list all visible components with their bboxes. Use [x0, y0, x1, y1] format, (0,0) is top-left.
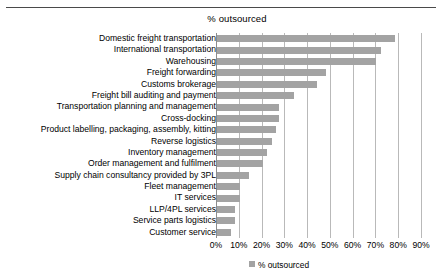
x-tick-label: 30% [276, 240, 293, 250]
bar [217, 206, 235, 213]
category-label: Freight bill auditing and payment [92, 90, 216, 101]
category-label: Order management and fulfilment [88, 158, 216, 169]
bar-row: Order management and fulfilment [0, 158, 442, 169]
bar-row: Reverse logistics [0, 136, 442, 147]
bar [217, 138, 272, 145]
bar-row: International transportation [0, 44, 442, 55]
bar [217, 58, 376, 65]
bar-row: IT services [0, 192, 442, 203]
bar [217, 35, 395, 42]
x-tick-label: 0% [210, 240, 222, 250]
chart-figure: % outsourced Domestic freight transporta… [0, 0, 442, 276]
bar [217, 229, 231, 236]
legend-item: % outsourced [249, 259, 309, 270]
bar [217, 47, 381, 54]
x-tick-label: 40% [299, 240, 316, 250]
x-tick-label: 80% [390, 240, 407, 250]
header-divider [6, 7, 436, 8]
bar-row: Customer service [0, 227, 442, 238]
category-label: LLP/4PL services [149, 204, 216, 215]
bar [217, 126, 276, 133]
category-label: Service parts logistics [133, 215, 216, 226]
bar-row: Product labelling, packaging, assembly, … [0, 124, 442, 135]
chart-title: % outsourced [0, 13, 442, 24]
x-tick-label: 90% [412, 240, 429, 250]
category-label: Reverse logistics [151, 136, 216, 147]
category-label: Domestic freight transportation [99, 33, 216, 44]
chart-title-text: % outsourced [207, 13, 266, 24]
bar [217, 217, 235, 224]
category-label: Customs brokerage [141, 79, 216, 90]
bar [217, 92, 294, 99]
category-label: Cross-docking [161, 113, 216, 124]
bar-row: Cross-docking [0, 113, 442, 124]
bar-row: Freight forwarding [0, 67, 442, 78]
bar [217, 172, 249, 179]
x-tick-label: 60% [344, 240, 361, 250]
category-label: Transportation planning and management [57, 101, 216, 112]
bar-row: Freight bill auditing and payment [0, 90, 442, 101]
bar-row: Customs brokerage [0, 79, 442, 90]
category-label: Freight forwarding [147, 67, 216, 78]
category-label: Product labelling, packaging, assembly, … [41, 124, 216, 135]
bar-rows: Domestic freight transportationInternati… [0, 33, 442, 238]
chart-legend: % outsourced [0, 259, 442, 270]
bar [217, 104, 279, 111]
bar-row: Fleet management [0, 181, 442, 192]
bar [217, 69, 326, 76]
category-label: Customer service [149, 227, 216, 238]
category-label: Fleet management [144, 181, 216, 192]
bar-row: LLP/4PL services [0, 204, 442, 215]
category-label: Warehousing [166, 56, 216, 67]
bar [217, 195, 240, 202]
x-tick-label: 20% [253, 240, 270, 250]
category-label: Inventory management [128, 147, 216, 158]
x-axis-ticks: 0%10%20%30%40%50%60%70%80%90% [0, 240, 442, 254]
bar [217, 183, 240, 190]
bar-row: Warehousing [0, 56, 442, 67]
bar-row: Service parts logistics [0, 215, 442, 226]
legend-swatch-icon [249, 261, 255, 267]
category-label: IT services [175, 192, 216, 203]
x-tick-label: 70% [367, 240, 384, 250]
legend-label: % outsourced [258, 260, 309, 270]
bar [217, 81, 317, 88]
bar-row: Transportation planning and management [0, 101, 442, 112]
bar [217, 149, 267, 156]
bar-row: Domestic freight transportation [0, 33, 442, 44]
x-tick-label: 10% [230, 240, 247, 250]
bar-row: Inventory management [0, 147, 442, 158]
bar-row: Supply chain consultancy provided by 3PL [0, 170, 442, 181]
bar [217, 115, 279, 122]
bar [217, 160, 263, 167]
x-tick-label: 50% [321, 240, 338, 250]
category-label: Supply chain consultancy provided by 3PL [55, 170, 216, 181]
category-label: International transportation [114, 44, 216, 55]
